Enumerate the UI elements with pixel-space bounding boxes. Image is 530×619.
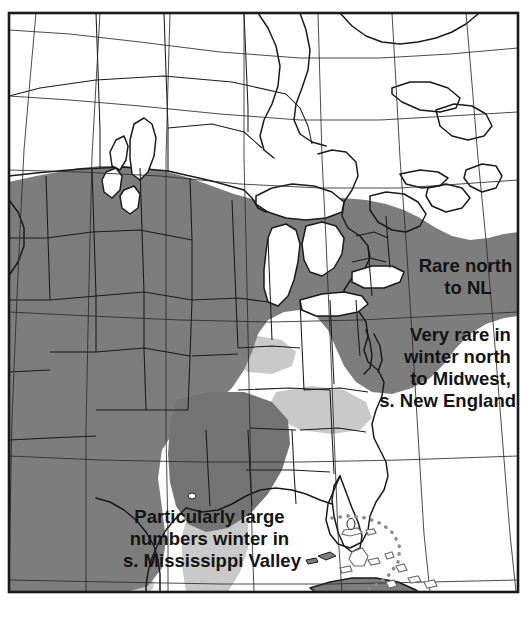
annotation-rare-north-line-2: to NL	[444, 277, 491, 298]
map-canvas: Rare north to NL Very rare in winter nor…	[0, 0, 530, 619]
annotation-mississippi-valley: Particularly large numbers winter in s. …	[123, 506, 302, 571]
annotation-mississippi-line-1: Particularly large	[134, 506, 284, 527]
louisiana-lakes	[188, 493, 196, 499]
annotation-very-rare-line-2: winter north	[403, 346, 511, 367]
annotation-rare-north-line-1: Rare north	[419, 255, 513, 276]
annotation-very-rare-line-1: Very rare in	[410, 324, 511, 345]
annotation-mississippi-line-2: numbers winter in	[130, 528, 289, 549]
lake-okeechobee	[347, 519, 355, 530]
species-range-map: Rare north to NL Very rare in winter nor…	[0, 0, 530, 619]
annotation-very-rare-line-4: s. New England	[379, 390, 516, 411]
annotation-mississippi-line-3: s. Mississippi Valley	[123, 550, 302, 571]
annotation-very-rare-line-3: to Midwest,	[410, 368, 511, 389]
